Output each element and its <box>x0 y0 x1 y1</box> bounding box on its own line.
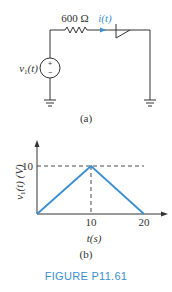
y-axis-label: v1(t) (V) <box>13 164 27 200</box>
source-minus: − <box>48 69 52 76</box>
circuit-diagram <box>40 24 156 106</box>
y-axis-arrow-icon <box>35 140 40 147</box>
resistor-label: 600 Ω <box>61 12 88 24</box>
plot-axes <box>37 146 162 214</box>
figure-canvas: 600 Ω i(t) + − v1(t) (a) 10 10 20 t(s) v… <box>0 0 172 292</box>
x-tick-20: 20 <box>139 216 151 228</box>
ground-icon <box>44 100 56 106</box>
x-axis-label: t(s) <box>87 232 102 245</box>
caption-b: (b) <box>80 248 93 261</box>
resistor-icon <box>65 27 87 33</box>
ground-icon <box>144 100 156 106</box>
caption-a: (a) <box>80 112 93 125</box>
source-label: v1(t) <box>19 62 38 76</box>
source-plus: + <box>48 60 52 67</box>
current-label: i(t) <box>98 12 112 25</box>
x-tick-10: 10 <box>86 216 98 228</box>
waveform-line <box>37 166 144 214</box>
current-arrow-icon <box>100 28 106 33</box>
x-axis-arrow-icon <box>161 212 168 217</box>
diode-slant-icon <box>116 30 130 38</box>
figure-caption: FIGURE P11.61 <box>45 270 128 282</box>
